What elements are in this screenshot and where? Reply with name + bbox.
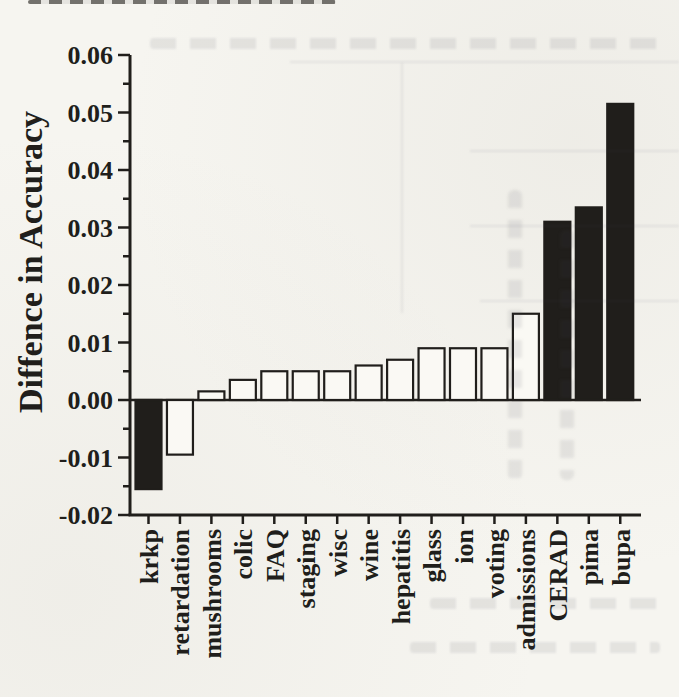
x-label-pima: pima [575,529,604,585]
bars-group [136,104,634,489]
bar-mushrooms [198,391,224,400]
x-label-retardation: retardation [166,528,195,655]
bar-wisc [324,371,350,400]
y-tick-label: 0.00 [68,386,114,415]
bar-voting [481,348,507,400]
x-label-FAQ: FAQ [261,529,290,582]
y-tick-label: 0.06 [68,41,114,70]
y-tick-label: 0.01 [68,329,114,358]
x-label-colic: colic [229,529,258,580]
bar-chart-figure: Diffence in Accuracy 0.060.050.040.030.0… [0,0,679,697]
bar-ion [450,348,476,400]
bar-glass [419,348,445,400]
x-label-CERAD: CERAD [544,529,573,621]
x-label-wisc: wisc [324,529,353,577]
x-label-glass: glass [418,529,447,582]
y-tick-label: 0.03 [68,214,114,243]
y-axis-title: Diffence in Accuracy [12,111,49,413]
x-label-staging: staging [292,529,321,608]
x-label-ion: ion [450,528,479,563]
scanned-page: Diffence in Accuracy 0.060.050.040.030.0… [0,0,679,697]
y-tick-label: 0.02 [68,271,114,300]
bar-hepatitis [387,360,413,400]
x-label-mushrooms: mushrooms [198,529,227,659]
bar-CERAD [544,222,570,400]
y-ticks-group: 0.060.050.040.030.020.010.00-0.01-0.02 [59,41,130,530]
x-label-krkp: krkp [135,529,164,584]
bar-retardation [167,400,193,455]
x-label-voting: voting [481,529,510,598]
x-labels-group: krkpretardationmushroomscolicFAQstagingw… [135,528,636,658]
x-label-hepatitis: hepatitis [387,529,416,624]
bar-admissions [513,314,539,400]
bar-krkp [136,400,162,489]
bar-bupa [607,104,633,400]
y-tick-label: 0.05 [68,99,114,128]
x-label-bupa: bupa [607,529,636,585]
y-tick-label: 0.04 [68,156,114,185]
y-tick-label: -0.02 [59,501,113,530]
y-tick-label: -0.01 [59,444,113,473]
x-label-admissions: admissions [512,529,541,650]
bar-colic [230,380,256,400]
bar-FAQ [261,371,287,400]
bar-wine [356,366,382,401]
bar-pima [576,207,602,400]
x-label-wine: wine [355,529,384,581]
bar-staging [293,371,319,400]
